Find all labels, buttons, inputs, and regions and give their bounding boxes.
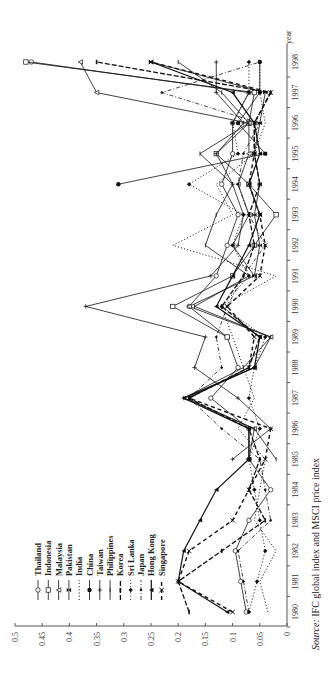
value-tick-label: 0.3 — [120, 632, 129, 642]
value-axis: 00.050.10.150.20.250.30.350.40.450.5 — [11, 623, 292, 646]
data-point-indonesia — [225, 335, 229, 339]
data-point-china — [236, 121, 240, 125]
data-point-hong-kong — [230, 90, 234, 94]
legend-label-taiwan: Taiwan — [95, 549, 105, 576]
value-tick-label: 0.5 — [11, 632, 20, 642]
year-tick-label: 1994 — [291, 176, 300, 192]
source-label: Source: — [310, 617, 321, 650]
year-tick-label: 1997 — [291, 85, 300, 101]
data-point-thailand — [220, 182, 224, 186]
data-point-thailand — [236, 365, 240, 369]
data-point-sri-lanka — [247, 60, 251, 64]
data-point-japan — [258, 122, 261, 125]
value-tick-label: 0.1 — [229, 632, 238, 642]
legend-label-hong-kong: Hong Kong — [146, 533, 156, 576]
year-tick-label: 1987 — [291, 390, 300, 406]
chart: 00.050.10.150.20.250.30.350.40.450.5 198… — [0, 0, 329, 689]
data-point-thailand — [247, 518, 251, 522]
year-tick-label: 1993 — [291, 207, 300, 223]
data-point-malaysia — [94, 90, 98, 94]
data-point-thailand — [236, 213, 240, 217]
value-tick-label: 0.2 — [174, 632, 183, 642]
data-point-sri-lanka — [258, 426, 262, 430]
year-axis: 1980198119821983198419851986198719881989… — [284, 30, 300, 627]
data-point-japan — [215, 335, 218, 338]
data-point-hong-kong — [214, 304, 218, 308]
data-point-sri-lanka — [187, 182, 191, 186]
year-tick-label: 1985 — [291, 451, 300, 467]
legend-label-india: India — [74, 556, 84, 576]
data-point-singapore — [230, 518, 234, 522]
legend-marker-sri-lanka — [129, 588, 133, 592]
legend-item-india: India — [74, 556, 84, 600]
year-tick-label: 1989 — [291, 329, 300, 345]
year-tick-label: 1996 — [291, 115, 300, 131]
data-point-singapore — [252, 335, 256, 339]
legend-label-pakistan: Pakistan — [64, 544, 74, 576]
year-tick-label: 1998 — [291, 54, 300, 70]
value-tick-label: 0 — [283, 632, 292, 636]
legend-item-sri-lanka: Sri Lanka — [126, 539, 136, 600]
legend-item-hong-kong: Hong Kong — [146, 533, 156, 600]
year-tick-label: 1988 — [291, 360, 300, 376]
data-point-japan — [160, 91, 163, 94]
data-point-china — [116, 182, 120, 186]
year-tick-label: 1983 — [291, 512, 300, 528]
year-tick-label: 1984 — [291, 482, 300, 498]
legend-label-korea: Korea — [115, 553, 125, 576]
data-point-indonesia — [171, 304, 175, 308]
source-text: Source: IFC global index and MSCI price … — [310, 458, 321, 650]
year-tick-label: 1980 — [291, 604, 300, 620]
value-tick-label: 0.4 — [65, 632, 74, 642]
year-tick-label: 1986 — [291, 421, 300, 437]
data-point-sri-lanka — [247, 396, 251, 400]
year-tick-label: 1990 — [291, 298, 300, 314]
legend-item-philippines: Philippines — [105, 535, 115, 600]
data-point-china — [263, 151, 267, 155]
legend-label-singapore: Singapore — [157, 539, 167, 576]
legend-marker-indonesia — [46, 588, 50, 592]
data-point-thailand — [225, 243, 229, 247]
data-point-japan — [220, 366, 223, 369]
year-tick-label: 1982 — [291, 543, 300, 559]
legend-item-pakistan: Pakistan — [64, 544, 74, 600]
legend-label-japan: Japan — [136, 554, 146, 576]
legend-item-korea: Korea — [115, 553, 125, 600]
data-point-sri-lanka — [241, 213, 245, 217]
data-point-japan — [264, 488, 267, 491]
data-point-sri-lanka — [236, 151, 240, 155]
data-point-singapore — [230, 610, 234, 614]
legend-label-thailand: Thailand — [33, 543, 43, 576]
data-point-indonesia — [274, 213, 278, 217]
data-point-sri-lanka — [258, 518, 262, 522]
series-line-thailand — [31, 62, 270, 612]
legend-label-malaysia: Malaysia — [54, 542, 64, 576]
data-point-thailand — [268, 488, 272, 492]
legend-marker-japan — [139, 588, 142, 591]
series-layer — [24, 60, 279, 614]
source-note: Source: IFC global index and MSCI price … — [310, 458, 321, 650]
data-point-thailand — [209, 396, 213, 400]
series-singapore — [149, 60, 273, 614]
source-description: IFC global index and MSCI price index — [310, 458, 321, 617]
legend-marker-thailand — [36, 588, 40, 592]
data-point-indonesia — [252, 90, 256, 94]
data-point-sri-lanka — [252, 488, 256, 492]
legend-item-taiwan: Taiwan — [95, 549, 105, 600]
value-tick-label: 0.45 — [38, 632, 47, 646]
data-point-malaysia — [78, 60, 82, 64]
year-tick-label: 1992 — [291, 237, 300, 253]
data-point-thailand — [214, 274, 218, 278]
data-point-japan — [258, 458, 261, 461]
legend: ThailandIndonesiaMalaysiaPakistanIndiaCh… — [33, 533, 167, 600]
data-point-taiwan — [203, 335, 207, 339]
data-point-hong-kong — [214, 488, 218, 492]
legend-item-china: China — [85, 553, 95, 600]
year-tick-label: 1995 — [291, 146, 300, 162]
year-tick-label: 1981 — [291, 573, 300, 589]
legend-marker-china — [87, 588, 91, 592]
data-point-sri-lanka — [255, 579, 259, 583]
legend-item-japan: Japan — [136, 554, 146, 600]
data-point-thailand — [230, 151, 234, 155]
legend-label-sri-lanka: Sri Lanka — [126, 539, 136, 576]
